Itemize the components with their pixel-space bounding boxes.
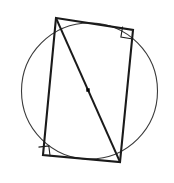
circle-center-dot — [86, 88, 89, 91]
geometry-canvas: Rectangle inscribed in a circle — [0, 0, 174, 183]
geometry-figure: Rectangle inscribed in a circle — [0, 0, 174, 183]
